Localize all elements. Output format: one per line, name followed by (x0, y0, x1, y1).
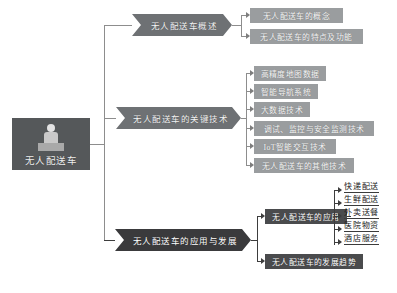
branch-node-overview-label: 无人配送车概述 (151, 19, 218, 31)
connector-branch-application (104, 240, 115, 241)
leaf-node-takeout-delivery-label: 外卖送餐 (344, 208, 379, 217)
leaf-node-hotel-service[interactable]: 酒店服务 (344, 235, 379, 245)
connector-key-tech-spine (246, 73, 247, 165)
leaf-node-express-delivery[interactable]: 快递配送 (344, 183, 379, 193)
leaf-node-hotel-service-label: 酒店服务 (344, 234, 379, 243)
connector-branch-overview (104, 25, 132, 26)
leaf-node-hospital-supplies[interactable]: 医院物资 (344, 222, 379, 232)
child-node-monitoring[interactable]: 调试、监控与安全监测技术 (254, 121, 374, 136)
branch-node-application-label: 无人配送车的应用与发展 (133, 234, 238, 246)
branch-node-overview[interactable]: 无人配送车概述 (132, 14, 232, 36)
child-node-overview-concept[interactable]: 无人配送车的概念 (250, 8, 343, 23)
child-node-overview-features-label: 无人配送车的特点及功能 (260, 31, 352, 42)
child-node-applications-label: 无人配送车的应用 (272, 211, 339, 222)
branch-node-key-tech[interactable]: 无人配送车的关键技术 (116, 107, 241, 129)
child-node-big-data-label: 大数据技术 (261, 104, 303, 115)
connector-root-spine (104, 25, 105, 240)
connector-application-spine (257, 216, 258, 261)
arrow-leaf-3-icon (338, 226, 342, 232)
child-node-navigation-label: 智能导航系统 (261, 86, 311, 97)
arrow-leaf-2-icon (338, 213, 342, 219)
delivery-robot-illustration-icon (12, 124, 90, 154)
child-node-hd-map[interactable]: 高精度地图数据 (254, 66, 326, 81)
leaf-node-express-delivery-label: 快递配送 (344, 182, 379, 191)
leaf-node-fresh-delivery-label: 生鲜配送 (344, 195, 379, 204)
connector-branch-keytech (104, 118, 116, 119)
arrow-leaf-4-icon (338, 239, 342, 245)
child-node-other-tech-label: 无人配送车的其他技术 (262, 160, 346, 171)
root-node-label: 无人配送车 (25, 156, 78, 166)
child-node-iot[interactable]: IoT智能交互技术 (254, 139, 336, 154)
child-node-development-trend[interactable]: 无人配送车的发展趋势 (265, 254, 363, 269)
child-node-navigation[interactable]: 智能导航系统 (254, 84, 318, 99)
child-node-other-tech[interactable]: 无人配送车的其他技术 (254, 158, 354, 173)
child-node-hd-map-label: 高精度地图数据 (261, 68, 320, 79)
connector-applications-spine (334, 190, 335, 245)
branch-node-key-tech-label: 无人配送车的关键技术 (133, 112, 228, 124)
connector-overview-spine (241, 15, 242, 36)
leaf-node-hospital-supplies-label: 医院物资 (344, 221, 379, 230)
arrow-leaf-1-icon (338, 200, 342, 206)
root-node[interactable]: 无人配送车 (12, 118, 90, 170)
branch-node-application[interactable]: 无人配送车的应用与发展 (115, 229, 251, 251)
mindmap-canvas: 无人配送车 无人配送车概述 无人配送车的概念 无人配送车的特点及功能 无人配送车… (0, 0, 397, 293)
connector-overview-stem (232, 25, 241, 26)
child-node-iot-label: IoT智能交互技术 (264, 141, 327, 152)
child-node-big-data[interactable]: 大数据技术 (254, 102, 310, 117)
child-node-overview-concept-label: 无人配送车的概念 (263, 10, 330, 21)
child-node-development-trend-label: 无人配送车的发展趋势 (272, 256, 356, 267)
arrow-leaf-0-icon (338, 187, 342, 193)
leaf-node-takeout-delivery[interactable]: 外卖送餐 (344, 209, 379, 219)
connector-root-stem (90, 144, 104, 145)
leaf-node-fresh-delivery[interactable]: 生鲜配送 (344, 196, 379, 206)
child-node-overview-features[interactable]: 无人配送车的特点及功能 (250, 29, 363, 44)
child-node-monitoring-label: 调试、监控与安全监测技术 (264, 123, 365, 134)
